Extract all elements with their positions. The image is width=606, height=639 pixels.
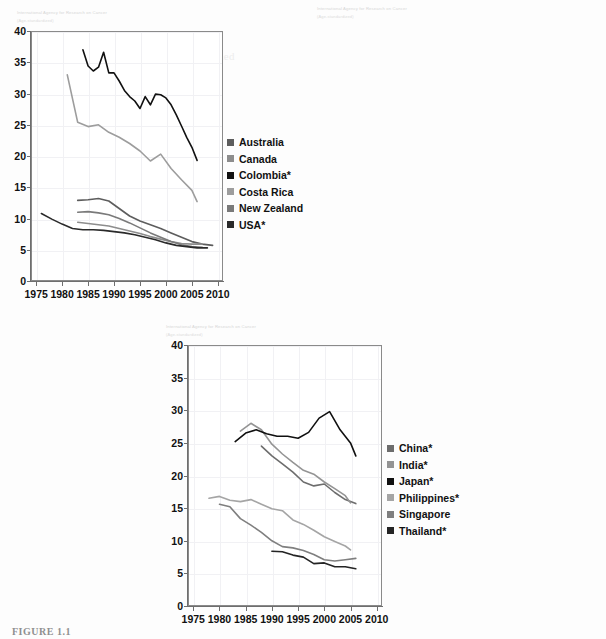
x-axis-tick — [114, 282, 115, 286]
legend-swatch-icon — [387, 461, 394, 468]
legend-swatch-icon — [227, 205, 234, 212]
x-axis-label: 1995 — [128, 289, 151, 300]
watermark-agency: International Agency for Research on Can… — [17, 10, 107, 15]
y-axis-label: 35 — [158, 372, 183, 383]
x-axis-label: 2010 — [365, 614, 388, 625]
legend-item-colombia[interactable]: Colombia* — [227, 167, 303, 184]
legend-label: Canada — [239, 154, 277, 165]
x-axis-tick — [140, 282, 141, 286]
legend-label: USA* — [239, 220, 265, 231]
x-axis-tick — [246, 607, 247, 611]
legend-swatch-icon — [387, 527, 394, 534]
y-axis-label: 30 — [158, 405, 183, 416]
x-axis-label: 1975 — [182, 614, 205, 625]
y-axis-label: 0 — [1, 276, 26, 287]
legend-item-new-zealand[interactable]: New Zealand — [227, 200, 303, 217]
x-axis-label: 1985 — [76, 289, 99, 300]
legend-swatch-icon — [227, 139, 234, 146]
legend-label: Thailand* — [399, 526, 446, 537]
legend-label: Japan* — [399, 476, 433, 487]
y-axis-label: 40 — [1, 26, 26, 37]
x-axis-label: 1990 — [102, 289, 125, 300]
x-axis-tick — [377, 607, 378, 611]
x-axis-line — [30, 281, 224, 282]
legend-item-costa-rica[interactable]: Costa Rica — [227, 184, 303, 201]
legend-item-china[interactable]: China* — [387, 440, 459, 457]
legend-label: China* — [399, 443, 432, 454]
legend-item-thailand[interactable]: Thailand* — [387, 523, 459, 540]
x-axis-label: 2000 — [154, 289, 177, 300]
legend-label: Costa Rica — [239, 187, 293, 198]
y-axis-label: 25 — [158, 438, 183, 449]
x-axis-label: 2005 — [180, 289, 203, 300]
x-axis-tick — [218, 282, 219, 286]
legend-swatch-icon — [227, 188, 234, 195]
legend-item-japan[interactable]: Japan* — [387, 473, 459, 490]
y-axis-label: 15 — [158, 503, 183, 514]
legend-swatch-icon — [227, 155, 234, 162]
series-layer — [188, 345, 382, 606]
x-axis-label: 1995 — [286, 614, 309, 625]
y-axis-label: 35 — [1, 57, 26, 68]
legend-swatch-icon — [227, 172, 234, 179]
legend-item-usa[interactable]: USA* — [227, 217, 303, 234]
y-axis-label: 10 — [158, 536, 183, 547]
legend-swatch-icon — [387, 478, 394, 485]
watermark-agency: International Agency for Research on Can… — [317, 6, 407, 11]
x-axis-tick — [324, 607, 325, 611]
x-axis-label: 1975 — [25, 289, 48, 300]
x-axis-tick — [272, 607, 273, 611]
series-line — [41, 214, 207, 248]
series-line — [83, 50, 197, 161]
x-axis-tick — [192, 282, 193, 286]
y-axis-label: 5 — [158, 568, 183, 579]
chart-panel-americas-oceania: International Agency for Research on Can… — [0, 0, 303, 310]
x-axis-label: 1980 — [208, 614, 231, 625]
y-axis-label: 25 — [1, 120, 26, 131]
y-axis-label: 10 — [1, 213, 26, 224]
x-axis-tick — [62, 282, 63, 286]
x-axis-tick — [36, 282, 37, 286]
watermark-subtitle: (Age-standardized) — [166, 332, 203, 337]
legend-swatch-icon — [227, 221, 234, 228]
watermark-subtitle: (Age-standardized) — [317, 14, 354, 19]
x-axis-label: 2000 — [313, 614, 336, 625]
legend-label: Australia — [239, 137, 284, 148]
legend-item-australia[interactable]: Australia — [227, 134, 303, 151]
series-line — [67, 75, 197, 202]
x-axis-label: 2010 — [206, 289, 229, 300]
chart-legend: AustraliaCanadaColombia*Costa RicaNew Ze… — [227, 134, 303, 233]
legend-label: India* — [399, 460, 428, 471]
y-axis-label: 0 — [158, 601, 183, 612]
chart-legend: China*India*Japan*Philippines*SingaporeT… — [387, 440, 459, 539]
series-line — [261, 446, 355, 504]
legend-label: Singapore — [399, 509, 450, 520]
legend-swatch-icon — [387, 511, 394, 518]
y-axis-tick — [184, 606, 188, 607]
series-line — [78, 222, 203, 244]
x-axis-label: 2005 — [339, 614, 362, 625]
legend-item-philippines[interactable]: Philippines* — [387, 490, 459, 507]
legend-item-canada[interactable]: Canada — [227, 151, 303, 168]
y-axis-label: 20 — [1, 151, 26, 162]
y-axis-label: 30 — [1, 88, 26, 99]
x-axis-tick — [351, 607, 352, 611]
x-axis-tick — [88, 282, 89, 286]
watermark-subtitle: (Age-standardized) — [17, 18, 54, 23]
legend-label: Colombia* — [239, 170, 291, 181]
y-axis-label: 5 — [1, 245, 26, 256]
legend-item-india[interactable]: India* — [387, 457, 459, 474]
watermark-agency: International Agency for Research on Can… — [166, 324, 256, 329]
x-axis-label: 1980 — [50, 289, 73, 300]
series-line — [209, 496, 351, 550]
series-layer — [31, 31, 223, 281]
legend-item-singapore[interactable]: Singapore — [387, 506, 459, 523]
x-axis-tick — [166, 282, 167, 286]
y-axis-tick — [27, 281, 31, 282]
figure-page: cancer incidence rates have declined con… — [0, 0, 606, 639]
x-axis-label: 1990 — [260, 614, 283, 625]
chart-panel-europe: International Agency for Research on Can… — [303, 0, 606, 310]
x-axis-tick — [219, 607, 220, 611]
x-axis-line — [187, 606, 383, 607]
x-axis-label: 1985 — [234, 614, 257, 625]
